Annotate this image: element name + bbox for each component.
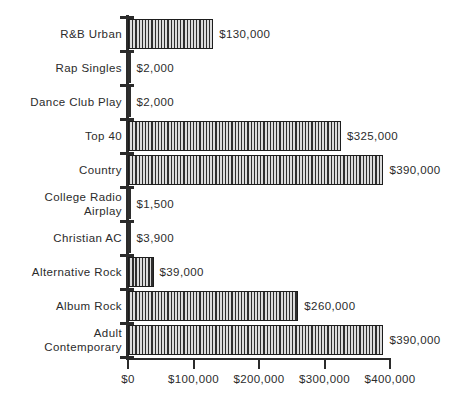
category-label: Rap Singles [0, 61, 122, 75]
category-axis-labels: R&B UrbanRap SinglesDance Club PlayTop 4… [0, 17, 122, 357]
bar [128, 53, 131, 83]
bar [128, 121, 341, 151]
x-axis-tick-label: $0 [121, 373, 135, 385]
category-label: Adult Contemporary [0, 326, 122, 354]
bar-value-label: $130,000 [219, 28, 270, 40]
category-label: Album Rock [0, 299, 122, 313]
category-label: Country [0, 163, 122, 177]
bar-value-label: $2,000 [137, 62, 175, 74]
bar-row: $390,000 [128, 155, 390, 185]
bar-chart: R&B UrbanRap SinglesDance Club PlayTop 4… [0, 0, 464, 407]
bar [128, 189, 131, 219]
bar-row: $3,900 [128, 223, 390, 253]
x-axis-tick-label: $200,000 [233, 373, 284, 385]
bar [128, 325, 383, 355]
plot-area: $130,000$2,000$2,000$325,000$390,000$1,5… [128, 17, 390, 357]
bar-row: $2,000 [128, 53, 390, 83]
bar-value-label: $1,500 [137, 198, 175, 210]
bar-value-label: $390,000 [389, 164, 440, 176]
bar [128, 19, 213, 49]
x-axis-tick [324, 358, 326, 369]
x-axis-tick [258, 358, 260, 369]
bar [128, 223, 131, 253]
category-label: R&B Urban [0, 27, 122, 41]
bar-row: $1,500 [128, 189, 390, 219]
bar [128, 87, 131, 117]
bar-value-label: $3,900 [137, 232, 175, 244]
x-axis-tick [193, 358, 195, 369]
x-axis-tick-label: $400,000 [364, 373, 415, 385]
bar-value-label: $39,000 [160, 266, 204, 278]
category-label: Dance Club Play [0, 95, 122, 109]
bar-row: $130,000 [128, 19, 390, 49]
bar [128, 155, 383, 185]
bar-row: $325,000 [128, 121, 390, 151]
x-axis-tick-label: $300,000 [299, 373, 350, 385]
category-label: College Radio Airplay [0, 190, 122, 218]
bar-row: $260,000 [128, 291, 390, 321]
bar-row: $390,000 [128, 325, 390, 355]
category-label: Christian AC [0, 231, 122, 245]
category-label: Alternative Rock [0, 265, 122, 279]
bar [128, 291, 298, 321]
bar-value-label: $390,000 [389, 334, 440, 346]
bar-row: $39,000 [128, 257, 390, 287]
bar-value-label: $2,000 [137, 96, 175, 108]
bar-row: $2,000 [128, 87, 390, 117]
bar [128, 257, 154, 287]
x-axis-tick [127, 358, 129, 369]
bar-value-label: $260,000 [304, 300, 355, 312]
category-label: Top 40 [0, 129, 122, 143]
x-axis-tick [389, 358, 391, 369]
x-axis-tick-label: $100,000 [168, 373, 219, 385]
bar-value-label: $325,000 [347, 130, 398, 142]
